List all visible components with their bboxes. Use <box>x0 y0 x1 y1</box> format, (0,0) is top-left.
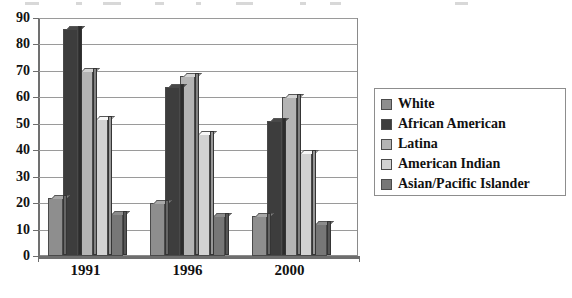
legend-item: American Indian <box>381 154 561 174</box>
bar-side-face <box>312 150 316 255</box>
legend-swatch-icon <box>381 159 392 170</box>
bar-side-face <box>327 221 331 255</box>
bar <box>48 198 63 256</box>
y-axis-label: 0 <box>0 250 30 262</box>
bar-series-layer <box>38 18 360 256</box>
y-axis-label: 70 <box>0 65 30 77</box>
bar-top-face <box>96 116 115 120</box>
bar-side-face <box>210 131 214 255</box>
bar-side-face <box>180 84 184 255</box>
bar <box>252 216 267 256</box>
legend-swatch-icon <box>381 179 392 190</box>
bar-side-face <box>108 116 112 256</box>
legend-label: White <box>398 96 435 112</box>
legend-swatch-icon <box>381 139 392 150</box>
legend-label: Latina <box>398 136 438 152</box>
x-axis-label: 1991 <box>51 262 121 279</box>
y-axis-label: 80 <box>0 38 30 50</box>
legend-label: African American <box>398 116 506 132</box>
bar-top-face <box>213 213 232 217</box>
y-axis-label: 20 <box>0 197 30 209</box>
y-axis-label: 10 <box>0 224 30 236</box>
legend-item: African American <box>381 114 561 134</box>
scan-artifact-strip <box>0 0 572 10</box>
y-axis-label: 40 <box>0 144 30 156</box>
chart-figure: 0102030405060708090 199119962000 WhiteAf… <box>0 0 572 298</box>
bar-side-face <box>78 26 82 255</box>
legend-swatch-icon <box>381 119 392 130</box>
y-axis-label: 60 <box>0 91 30 103</box>
y-axis-label: 90 <box>0 12 30 24</box>
legend-label: American Indian <box>398 156 500 172</box>
bar-side-face <box>165 200 169 255</box>
legend-item: White <box>381 94 561 114</box>
bar <box>150 203 165 256</box>
bar-side-face <box>267 213 271 255</box>
bar-side-face <box>123 211 127 255</box>
legend-swatch-icon <box>381 99 392 110</box>
legend: WhiteAfrican AmericanLatinaAmerican Indi… <box>374 88 566 196</box>
x-axis-label: 1996 <box>153 262 223 279</box>
bar-side-face <box>225 213 229 255</box>
bar-top-face <box>111 211 130 215</box>
bar-top-face <box>183 73 202 77</box>
bar-side-face <box>195 73 199 255</box>
bar-top-face <box>81 68 100 72</box>
legend-item: Latina <box>381 134 561 154</box>
x-axis-label: 2000 <box>255 262 325 279</box>
bar-side-face <box>63 195 67 255</box>
bar-top-face <box>315 221 334 225</box>
legend-label: Asian/Pacific Islander <box>398 176 530 192</box>
bar-top-face <box>198 131 217 135</box>
bar-top-face <box>285 94 304 98</box>
y-axis-label: 50 <box>0 118 30 130</box>
legend-item: Asian/Pacific Islander <box>381 174 561 194</box>
bar-side-face <box>297 94 301 255</box>
bar-top-face <box>66 26 85 30</box>
bar-side-face <box>282 118 286 255</box>
bar-side-face <box>93 68 97 255</box>
y-axis-label: 30 <box>0 171 30 183</box>
bar-top-face <box>300 150 319 154</box>
